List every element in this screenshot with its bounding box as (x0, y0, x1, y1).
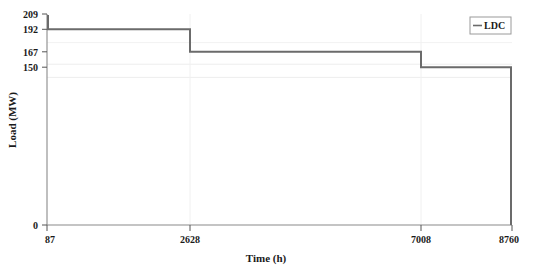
y-tick-marks (42, 14, 47, 225)
load-duration-curve-chart: 209 192 167 150 0 87 2628 7008 8760 Time… (0, 0, 538, 271)
x-axis-title: Time (h) (246, 252, 287, 265)
legend[interactable]: LDC (470, 17, 511, 34)
x-tick-labels: 87 2628 7008 8760 (45, 234, 519, 245)
x-tick-label-87: 87 (45, 234, 55, 245)
x-tick-marks (47, 225, 512, 231)
chart-svg: 209 192 167 150 0 87 2628 7008 8760 Time… (0, 0, 538, 271)
legend-label-ldc: LDC (484, 20, 505, 31)
y-tick-label-192: 192 (23, 24, 38, 35)
y-tick-label-0: 0 (33, 220, 38, 231)
y-tick-labels: 209 192 167 150 0 (23, 9, 38, 231)
plot-area-background (47, 14, 512, 225)
y-axis-title: Load (MW) (6, 92, 19, 148)
x-tick-label-2628: 2628 (180, 234, 200, 245)
x-tick-label-8760: 8760 (499, 234, 519, 245)
y-tick-label-167: 167 (23, 47, 38, 58)
y-tick-label-150: 150 (23, 62, 38, 73)
y-tick-label-209: 209 (23, 9, 38, 20)
x-tick-label-7008: 7008 (411, 234, 431, 245)
